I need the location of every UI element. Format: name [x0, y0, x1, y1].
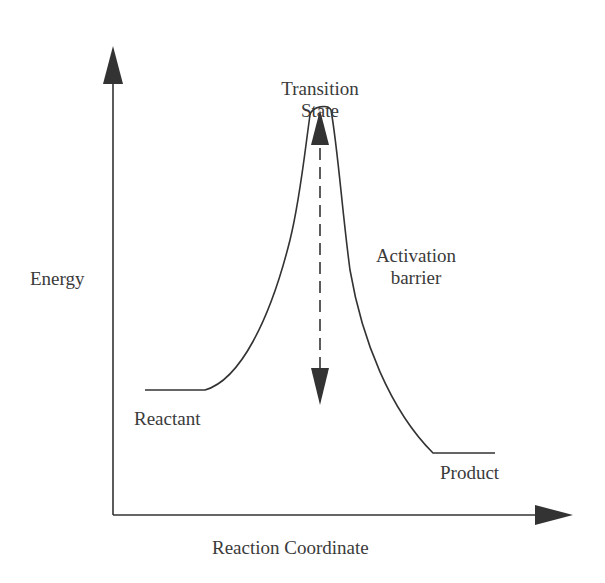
activation-barrier-line1: Activation	[360, 245, 472, 267]
transition-state-line1: Transition	[262, 78, 378, 100]
x-axis-arrowhead-icon	[535, 505, 573, 525]
energy-diagram: Transition State Activation barrier Ener…	[0, 0, 605, 583]
transition-state-line2: State	[262, 100, 378, 122]
activation-barrier-line2: barrier	[360, 267, 472, 289]
x-axis-label: Reaction Coordinate	[212, 537, 369, 559]
transition-state-label: Transition State	[262, 78, 378, 122]
y-axis-arrowhead-icon	[103, 46, 123, 84]
product-label: Product	[440, 462, 499, 484]
activation-barrier-label: Activation barrier	[360, 245, 472, 289]
reactant-label: Reactant	[134, 408, 200, 430]
y-axis-label: Energy	[30, 268, 85, 290]
activation-down-arrowhead-icon	[311, 368, 329, 405]
